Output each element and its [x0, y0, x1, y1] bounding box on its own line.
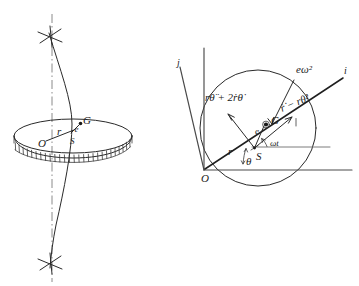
theta-arc-arrow-top: [244, 149, 247, 153]
omega-t-angle-label: ωt: [270, 138, 279, 148]
axis-j-label: j: [175, 57, 180, 68]
disk-point-G-marker: [79, 122, 83, 126]
left-panel-group: O r e S G: [14, 14, 132, 282]
origin-label-O: O: [201, 172, 209, 184]
vector-transverse-arrowhead: [228, 114, 234, 120]
slider-label-S: S: [256, 150, 262, 162]
right-panel-group: j i: [175, 48, 352, 186]
vector-transverse-acceleration: [228, 114, 255, 148]
axis-i-label: i: [344, 65, 347, 76]
eccentricity-label-e: e: [255, 126, 259, 136]
point-G-marker: [264, 122, 268, 126]
theta-angle-label: θ: [246, 155, 252, 167]
vector-label-transverse-acceleration: rθ̈ + 2ṙθ̇: [205, 91, 247, 103]
disk-center-of-mass-label: G: [83, 114, 91, 126]
disk-slider-label: S: [70, 136, 75, 146]
mechanics-figure: O r e S G j i: [0, 0, 359, 286]
disk-eccentricity-label: e: [75, 124, 79, 134]
disk-origin-label: O: [38, 137, 46, 149]
vector-label-e-omega-squared: eω²: [296, 63, 313, 75]
disk-radius-label: r: [57, 125, 62, 137]
slider-point-S-marker: [253, 147, 256, 150]
radius-label-r: r: [228, 145, 233, 157]
figure-canvas: O r e S G j i: [0, 0, 359, 286]
center-of-mass-label-G: G: [271, 114, 279, 126]
